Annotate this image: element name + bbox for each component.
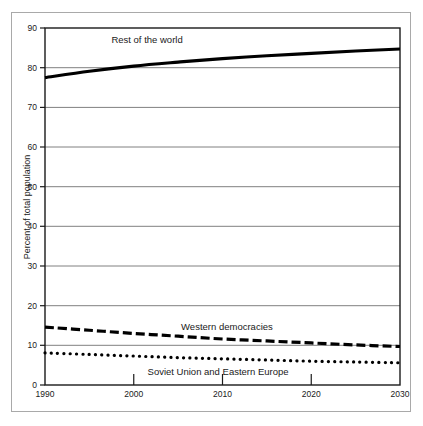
series-label-soviet-union-and-eastern-europe: Soviet Union and Eastern Europe	[148, 366, 289, 377]
y-tick-label-60: 60	[28, 142, 38, 152]
x-tick-label-2000: 2000	[124, 389, 143, 399]
y-tick-label-90: 90	[28, 23, 38, 33]
y-tick-label-30: 30	[28, 261, 38, 271]
figure-root: Percent of total population	[0, 0, 423, 426]
y-tick-label-40: 40	[28, 221, 38, 231]
y-tick-label-50: 50	[28, 182, 38, 192]
x-tick-label-2010: 2010	[213, 389, 232, 399]
x-tick-label-2020: 2020	[302, 389, 321, 399]
y-axis-title: Percent of total population	[22, 155, 32, 260]
population-share-line-chart: Percent of total population	[0, 0, 423, 426]
x-tick-label-2030: 2030	[391, 389, 410, 399]
y-axis-ticks	[40, 28, 45, 385]
x-tick-label-1990: 1990	[36, 389, 55, 399]
series-label-rest-of-the-world: Rest of the world	[111, 34, 182, 45]
y-tick-label-80: 80	[28, 63, 38, 73]
y-tick-label-20: 20	[28, 301, 38, 311]
y-tick-label-70: 70	[28, 102, 38, 112]
y-tick-label-10: 10	[28, 340, 38, 350]
series-label-western-democracies: Western democracies	[181, 321, 273, 332]
